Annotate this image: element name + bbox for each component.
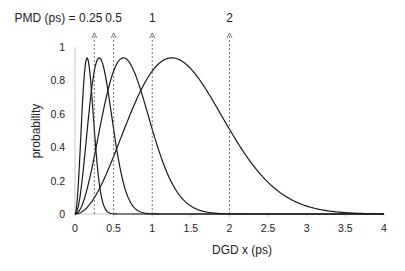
y-tick-label: 1 (59, 41, 65, 53)
pmd-dgd-chart: 00.511.522.533.5400.20.40.60.81 PMD (ps)… (0, 0, 405, 271)
y-tick-label: 0.8 (50, 74, 65, 86)
x-tick-label: 2 (227, 222, 233, 234)
x-tick-label: 3 (304, 222, 310, 234)
y-tick-label: 0.2 (50, 175, 65, 187)
y-tick-label: 0.6 (50, 108, 65, 120)
x-tick-label: 1.5 (184, 222, 199, 234)
x-tick-label: 3.5 (338, 222, 353, 234)
x-tick-label: 0.5 (106, 222, 121, 234)
pmd-marker-label: 1 (149, 11, 156, 25)
axes: 00.511.522.533.5400.20.40.60.81 (50, 41, 387, 234)
y-axis-label: probability (29, 104, 43, 159)
y-tick-label: 0.4 (50, 141, 65, 153)
y-tick-label: 0 (59, 208, 65, 220)
x-tick-label: 1 (149, 222, 155, 234)
x-tick-label: 2.5 (261, 222, 276, 234)
pmd-marker-label: PMD (ps) = 0.25 (15, 11, 103, 25)
pmd-marker-label: 2 (226, 11, 233, 25)
x-axis-label: DGD x (ps) (212, 243, 272, 257)
pmd-marker-label: 0.5 (105, 11, 122, 25)
x-tick-label: 4 (381, 222, 387, 234)
x-tick-label: 0 (72, 222, 78, 234)
